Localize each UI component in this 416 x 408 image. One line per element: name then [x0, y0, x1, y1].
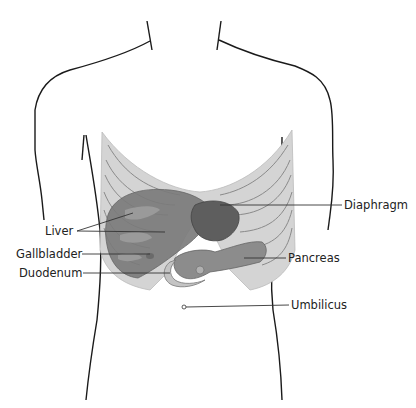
- label-diaphragm: Diaphragm: [344, 200, 408, 212]
- label-duodenum: Duodenum: [19, 268, 82, 280]
- umbilicus-mark: [182, 305, 186, 309]
- label-umbilicus: Umbilicus: [291, 300, 347, 312]
- label-liver: Liver: [45, 226, 73, 238]
- label-gallbladder: Gallbladder: [16, 249, 82, 261]
- label-pancreas: Pancreas: [288, 253, 340, 265]
